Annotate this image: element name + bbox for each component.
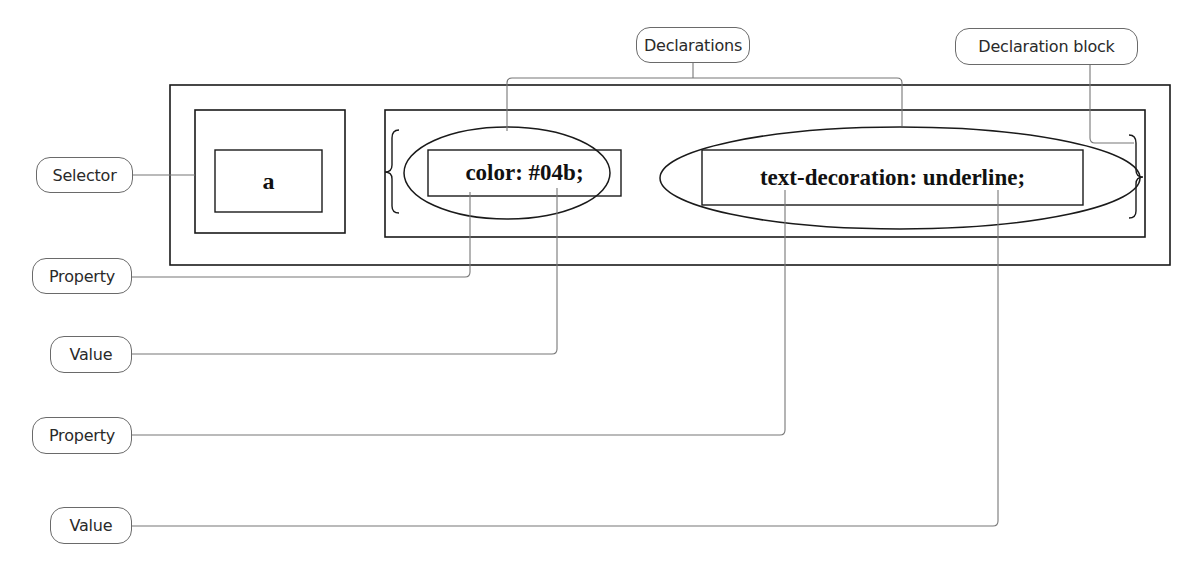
selector-label: Selector — [36, 157, 133, 193]
declarations-leader-line — [507, 62, 902, 131]
declaration-block-leader-line — [1090, 64, 1134, 143]
left-brace-icon — [385, 130, 399, 213]
value-2-leader-line — [132, 190, 998, 526]
css-rule-diagram — [0, 0, 1186, 562]
property-2-label: Property — [32, 417, 132, 454]
declaration-2-text: text-decoration: underline; — [702, 150, 1083, 205]
declarations-label: Declarations — [636, 27, 750, 63]
right-brace-icon — [1129, 135, 1143, 218]
selector-text: a — [215, 150, 322, 212]
value-2-label: Value — [50, 507, 132, 544]
property-1-label: Property — [32, 258, 132, 294]
property-2-leader-line — [132, 190, 785, 435]
declaration-block-label: Declaration block — [955, 28, 1138, 65]
value-1-label: Value — [50, 336, 132, 373]
declaration-1-text: color: #04b; — [428, 150, 621, 196]
